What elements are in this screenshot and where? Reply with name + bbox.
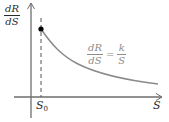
start-point-marker [38, 26, 43, 31]
diagram-figure: dR dS dR dS = k S S0 S [0, 0, 169, 122]
x-axis-label: S [153, 100, 161, 111]
y-axis-label-numerator: dR [4, 4, 20, 14]
diagram-canvas [0, 0, 169, 122]
s0-label-base: S [36, 99, 44, 112]
equation-lhs-denominator: dS [87, 56, 102, 66]
equation-operator: = [106, 49, 114, 60]
y-axis-label: dR dS [4, 4, 20, 27]
y-axis-label-denominator: dS [4, 17, 19, 27]
equation-lhs-numerator: dR [87, 43, 103, 53]
equation-lhs: dR dS [87, 43, 103, 66]
equation-rhs-denominator: S [117, 56, 126, 66]
s0-label: S0 [36, 100, 48, 113]
s0-label-subscript: 0 [44, 105, 48, 113]
equation-rhs-numerator: k [118, 43, 126, 53]
curve-equation: dR dS = k S [87, 43, 126, 66]
equation-rhs: k S [117, 43, 126, 66]
